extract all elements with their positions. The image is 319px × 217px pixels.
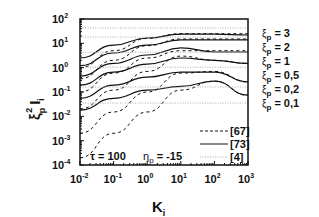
y-tick-label: 10-3 [52, 134, 71, 147]
eta-annotation: ηp = -15 [143, 150, 182, 165]
y-axis-title: ξp2Ii [24, 98, 47, 120]
y-tick-label: 102 [52, 12, 68, 25]
xi-label: ξp= 3 [262, 27, 290, 42]
x-tick-label: 100 [137, 172, 153, 185]
x-tick-label: 101 [171, 172, 187, 185]
svg-text:ξp2Ii: ξp2Ii [24, 98, 47, 120]
y-tick-label: 100 [52, 61, 68, 74]
y-tick-label: 101 [52, 36, 68, 49]
xi-label: ξp= 1 [262, 55, 290, 70]
xi-label: ξp= 0,1 [262, 97, 299, 112]
legend-label-73: [73] [230, 138, 250, 150]
x-tick-label: 103 [238, 172, 254, 185]
y-tick-label: 10-4 [52, 158, 71, 171]
series-line [80, 72, 248, 98]
x-axis-title: Ki [152, 198, 165, 217]
xi-label: ξp= 0,2 [262, 83, 299, 98]
tau-annotation: τ = 100 [90, 150, 126, 162]
plot-lines [80, 28, 248, 158]
legend-label-67: [67] [230, 125, 250, 137]
x-tick-label: 10-1 [104, 172, 123, 185]
xi-label: ξp= 2 [262, 41, 290, 56]
chart: 10-210-110010110210310-410-310-210-11001… [0, 0, 319, 217]
x-tick-label: 102 [204, 172, 220, 185]
series-labels: ξp= 3ξp= 2ξp= 1ξp= 0,5ξp= 0,2ξp= 0,1 [262, 27, 299, 112]
series-line [80, 81, 248, 110]
xi-label: ξp= 0,5 [262, 69, 299, 84]
y-tick-label: 10-1 [52, 85, 71, 98]
y-tick-label: 10-2 [52, 109, 71, 122]
series-line [80, 51, 248, 92]
series-line [80, 71, 248, 133]
legend: [67] [73] [4] [200, 125, 250, 163]
x-tick-label: 10-2 [70, 172, 89, 185]
legend-label-4: [4] [230, 151, 244, 163]
